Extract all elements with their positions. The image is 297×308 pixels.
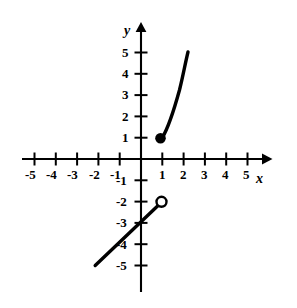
x-axis-label: x [256, 172, 263, 186]
y-tick-label--1: -1 [116, 174, 127, 187]
upper-branch-curve [162, 52, 188, 138]
y-tick-label-3: 3 [122, 88, 129, 101]
x-tick-label-3: 3 [201, 168, 208, 181]
x-tick-label--3: -3 [67, 168, 78, 181]
x-tick-label-4: 4 [222, 168, 229, 181]
x-tick-label--4: -4 [46, 168, 57, 181]
y-tick-label-5: 5 [122, 46, 129, 59]
x-tick-label--2: -2 [89, 168, 100, 181]
x-tick-label-2: 2 [180, 168, 187, 181]
y-tick-label--3: -3 [116, 216, 127, 229]
x-axis-arrow-icon [262, 154, 273, 165]
y-tick-label-2: 2 [122, 110, 129, 123]
x-tick-label-5: 5 [243, 168, 250, 181]
y-tick-label-1: 1 [122, 131, 129, 144]
axes-group [22, 22, 273, 292]
y-tick-label--5: -5 [116, 259, 127, 272]
open-endpoint-marker [157, 197, 167, 207]
y-tick-label-4: 4 [122, 67, 129, 80]
y-axis-arrow-icon [136, 22, 147, 32]
y-tick-label--4: -4 [116, 238, 127, 251]
y-tick-label--2: -2 [116, 195, 127, 208]
coordinate-plane-svg [0, 0, 297, 308]
graph-figure: -5 -4 -3 -2 -1 1 2 3 4 5 5 4 3 2 1 -1 -2… [0, 0, 297, 308]
x-tick-label-1: 1 [159, 168, 166, 181]
x-tick-label--5: -5 [25, 168, 36, 181]
lower-branch-line [95, 202, 162, 266]
closed-endpoint-marker [155, 133, 166, 144]
y-axis-label: y [124, 24, 130, 38]
